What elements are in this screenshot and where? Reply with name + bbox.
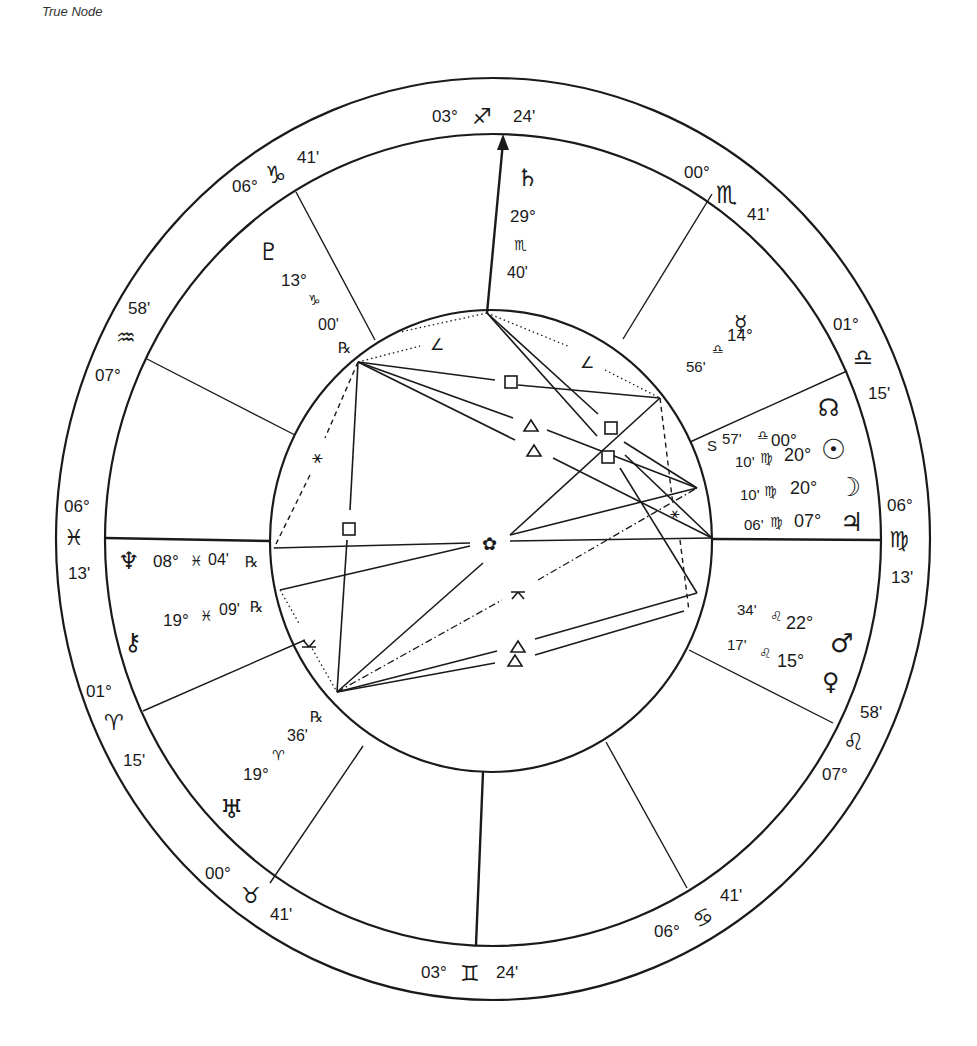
svg-text:S: S bbox=[707, 437, 717, 454]
svg-text:♑: ♑ bbox=[308, 292, 321, 308]
svg-text:07°: 07° bbox=[822, 765, 848, 784]
svg-text:☊: ☊ bbox=[818, 394, 839, 422]
svg-text:♄: ♄ bbox=[517, 164, 539, 192]
svg-text:☉: ☉ bbox=[821, 433, 846, 466]
svg-text:♊: ♊ bbox=[460, 961, 480, 986]
planet-mars: ♂ 34' ♌ 22° bbox=[737, 601, 853, 658]
svg-text:15': 15' bbox=[123, 751, 145, 770]
svg-text:09': 09' bbox=[219, 601, 240, 618]
svg-text:14°: 14° bbox=[727, 326, 753, 345]
svg-text:22°: 22° bbox=[786, 613, 813, 633]
svg-text:13': 13' bbox=[891, 568, 913, 587]
semisquare-aspect-icon: ∠ bbox=[430, 335, 444, 354]
svg-text:06°: 06° bbox=[232, 177, 258, 196]
svg-text:41': 41' bbox=[270, 905, 292, 924]
svg-text:56': 56' bbox=[686, 358, 706, 375]
square-aspect-icon bbox=[505, 376, 517, 388]
trine-aspect-icon bbox=[527, 445, 541, 456]
natal-chart-wheel: ⚹ ⚹ ∠ ∠ ✿ 03° ♐ 24' 06° ♑ 41' 58' ♒ 07° … bbox=[0, 0, 977, 1046]
svg-text:♋: ♋ bbox=[688, 902, 718, 934]
svg-text:15°: 15° bbox=[777, 651, 804, 671]
svg-text:♉: ♉ bbox=[241, 883, 261, 908]
svg-text:♐: ♐ bbox=[472, 104, 492, 129]
svg-text:♎: ♎ bbox=[757, 428, 769, 443]
planet-pluto: ♇ 13° ♑ 00' ℞ bbox=[258, 238, 351, 357]
planet-north-node: ☊ S 57' ♎ 00° bbox=[707, 394, 839, 454]
svg-text:07°: 07° bbox=[794, 511, 821, 531]
svg-text:41': 41' bbox=[720, 886, 742, 905]
svg-text:19°: 19° bbox=[163, 611, 189, 630]
svg-text:58': 58' bbox=[860, 703, 882, 722]
svg-text:24': 24' bbox=[513, 107, 535, 126]
aspect-lines bbox=[274, 313, 712, 692]
svg-text:15': 15' bbox=[868, 384, 890, 403]
svg-text:04': 04' bbox=[208, 551, 229, 568]
trine-aspect-icon bbox=[511, 641, 525, 652]
quincunx-aspect-icon bbox=[302, 640, 316, 647]
svg-text:29°: 29° bbox=[510, 207, 536, 226]
quincunx-aspect-icon bbox=[511, 592, 525, 599]
svg-text:♌: ♌ bbox=[759, 645, 772, 661]
svg-text:⚷: ⚷ bbox=[124, 628, 142, 656]
planet-chiron: ⚷ 19° ♓ 09' ℞ bbox=[124, 598, 263, 656]
svg-text:10': 10' bbox=[740, 486, 760, 503]
planet-mercury: ☿ 14° ♎ 56' bbox=[686, 311, 753, 375]
svg-text:03°: 03° bbox=[432, 107, 458, 126]
mc-arrow-icon bbox=[497, 134, 509, 150]
svg-text:☽: ☽ bbox=[838, 472, 861, 502]
svg-text:♅: ♅ bbox=[220, 794, 243, 824]
svg-text:♂: ♂ bbox=[830, 628, 853, 658]
svg-text:♏: ♏ bbox=[716, 181, 738, 209]
svg-text:♌: ♌ bbox=[843, 728, 865, 756]
aspect-glyphs: ⚹ ⚹ ∠ ∠ ✿ bbox=[302, 335, 680, 666]
svg-text:♍: ♍ bbox=[764, 483, 777, 499]
svg-text:♍: ♍ bbox=[760, 450, 773, 466]
svg-text:06': 06' bbox=[744, 516, 764, 533]
square-aspect-icon bbox=[605, 422, 617, 434]
svg-text:58': 58' bbox=[128, 299, 150, 318]
svg-text:♇: ♇ bbox=[258, 238, 280, 266]
svg-text:00': 00' bbox=[318, 316, 339, 333]
svg-text:♀: ♀ bbox=[822, 668, 840, 696]
svg-text:♓: ♓ bbox=[64, 525, 84, 550]
svg-text:♓: ♓ bbox=[200, 608, 213, 624]
svg-text:00°: 00° bbox=[684, 163, 710, 182]
svg-text:01°: 01° bbox=[833, 315, 859, 334]
svg-text:♏: ♏ bbox=[514, 237, 527, 253]
square-aspect-icon bbox=[343, 523, 355, 535]
svg-text:♌: ♌ bbox=[770, 608, 783, 624]
center-glyph-icon: ✿ bbox=[482, 533, 497, 554]
svg-text:13°: 13° bbox=[281, 271, 307, 290]
svg-text:34': 34' bbox=[737, 601, 757, 618]
planet-moon: ☽ 10' ♍ 20° bbox=[740, 472, 861, 503]
svg-text:41': 41' bbox=[297, 148, 319, 167]
sextile-aspect-icon: ⚹ bbox=[670, 503, 680, 522]
svg-text:♃: ♃ bbox=[840, 507, 863, 537]
svg-text:10': 10' bbox=[735, 453, 755, 470]
svg-text:19°: 19° bbox=[243, 765, 269, 784]
svg-text:17': 17' bbox=[727, 636, 747, 653]
planet-jupiter: ♃ 06' ♍ 07° bbox=[744, 507, 863, 537]
planet-saturn: ♄ 29° ♏ 40' bbox=[507, 164, 539, 281]
svg-text:40': 40' bbox=[507, 264, 528, 281]
svg-text:20°: 20° bbox=[790, 478, 817, 498]
svg-text:♆: ♆ bbox=[118, 547, 140, 575]
svg-text:24': 24' bbox=[496, 963, 518, 982]
semisquare-aspect-icon: ∠ bbox=[580, 353, 594, 372]
svg-text:06°: 06° bbox=[887, 496, 913, 515]
trine-aspect-icon bbox=[508, 655, 522, 666]
svg-text:01°: 01° bbox=[86, 682, 112, 701]
svg-text:♎: ♎ bbox=[853, 345, 873, 370]
svg-text:08°: 08° bbox=[153, 552, 179, 571]
svg-text:℞: ℞ bbox=[245, 553, 258, 571]
planet-venus: ♀ 17' ♌ 15° bbox=[727, 636, 840, 696]
svg-text:♒: ♒ bbox=[116, 325, 136, 350]
svg-text:℞: ℞ bbox=[338, 339, 351, 357]
svg-text:20°: 20° bbox=[784, 445, 811, 465]
svg-text:36': 36' bbox=[287, 727, 308, 744]
trine-aspect-icon bbox=[524, 420, 538, 431]
svg-text:06°: 06° bbox=[654, 922, 680, 941]
svg-text:06°: 06° bbox=[64, 497, 90, 516]
svg-text:♈: ♈ bbox=[272, 747, 285, 763]
svg-text:♍: ♍ bbox=[770, 514, 783, 530]
